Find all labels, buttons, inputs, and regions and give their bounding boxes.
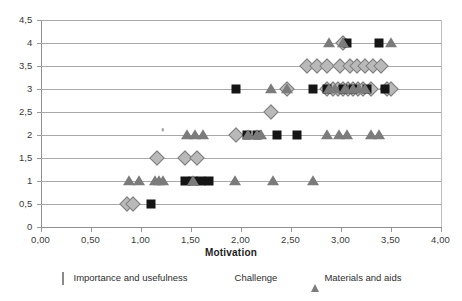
gridline-horizontal: [41, 204, 441, 205]
legend-label: Challenge: [235, 272, 278, 283]
x-axis-tick: [191, 228, 192, 232]
data-point-triangle: [281, 83, 293, 93]
gridline-horizontal: [41, 181, 441, 182]
diamond-icon: [61, 273, 70, 282]
y-axis-tick: [37, 43, 41, 44]
data-point-triangle: [385, 37, 397, 47]
legend-item-materials-and-aids[interactable]: Materials and aids: [311, 272, 401, 283]
x-axis-tick: [41, 228, 42, 232]
x-axis-tick-label: 0,00: [21, 235, 61, 245]
x-axis-title: Motivation: [0, 247, 462, 258]
data-point-square: [380, 84, 389, 93]
x-axis-tick-label: 1,50: [171, 235, 211, 245]
data-point-triangle: [229, 175, 241, 185]
chart-legend: Importance and usefulness Challenge Mate…: [0, 272, 462, 283]
y-axis-tick: [37, 158, 41, 159]
y-axis-tick: [37, 66, 41, 67]
x-axis-tick-label: 3,50: [371, 235, 411, 245]
x-axis-tick-label: 2,00: [221, 235, 261, 245]
y-axis-tick: [37, 135, 41, 136]
gridline-horizontal: [41, 158, 441, 159]
x-axis-tick: [441, 228, 442, 232]
square-icon: [222, 273, 231, 282]
data-point-triangle: [133, 175, 145, 185]
data-point-triangle: [157, 175, 169, 185]
x-axis-tick: [141, 228, 142, 232]
y-axis-tick: [37, 204, 41, 205]
y-axis-tick: [37, 89, 41, 90]
legend-item-importance-and-usefulness[interactable]: Importance and usefulness: [61, 272, 188, 283]
data-point-square: [308, 84, 317, 93]
y-axis-tick-label: 1,5: [0, 153, 33, 163]
y-axis-line: [41, 20, 42, 228]
data-point-square: [272, 130, 281, 139]
data-point-triangle: [373, 129, 385, 139]
legend-label: Materials and aids: [324, 272, 401, 283]
x-axis-tick-label: 1,00: [121, 235, 161, 245]
data-point-triangle: [307, 175, 319, 185]
legend-item-challenge[interactable]: Challenge: [222, 272, 278, 283]
data-point-triangle: [341, 129, 353, 139]
data-point-triangle: [359, 83, 371, 93]
legend-label: Importance and usefulness: [74, 272, 188, 283]
x-axis-tick-label: 3,00: [321, 235, 361, 245]
gridline-horizontal: [41, 112, 441, 113]
y-axis-tick-label: 0: [0, 222, 33, 232]
x-axis-tick: [241, 228, 242, 232]
x-axis-tick-label: 4,00: [421, 235, 461, 245]
x-axis-tick-label: 0,50: [71, 235, 111, 245]
y-axis-tick-label: 0,5: [0, 199, 33, 209]
y-axis-tick: [37, 20, 41, 21]
y-axis-tick-label: 2: [0, 130, 33, 140]
data-point-triangle: [323, 37, 335, 47]
y-axis-tick: [37, 181, 41, 182]
x-axis-tick: [91, 228, 92, 232]
gridline-horizontal: [41, 20, 441, 21]
data-point-triangle: [337, 37, 349, 47]
data-point-triangle: [197, 129, 209, 139]
y-axis-tick-label: 3,5: [0, 61, 33, 71]
y-axis-tick-label: 2,5: [0, 107, 33, 117]
data-point-square: [204, 176, 213, 185]
y-axis-tick-label: 1: [0, 176, 33, 186]
y-axis-tick-label: 4,5: [0, 15, 33, 25]
data-point-square: [231, 84, 240, 93]
x-axis-tick: [391, 228, 392, 232]
data-point-triangle: [267, 175, 279, 185]
stray-mark: [161, 128, 164, 132]
y-axis-tick-label: 3: [0, 84, 33, 94]
data-point-triangle: [255, 129, 267, 139]
plot-right-border: [441, 20, 442, 227]
data-point-square: [292, 130, 301, 139]
plot-area: [41, 20, 441, 227]
x-axis-tick: [341, 228, 342, 232]
y-axis-tick: [37, 112, 41, 113]
data-point-square: [146, 199, 155, 208]
triangle-icon: [311, 273, 320, 282]
data-point-triangle: [265, 83, 277, 93]
scatter-chart: Motivation Importance and usefulness Cha…: [0, 0, 462, 301]
data-point-square: [374, 38, 383, 47]
y-axis-tick-label: 4: [0, 38, 33, 48]
x-axis-tick-label: 2,50: [271, 235, 311, 245]
data-point-triangle: [187, 175, 199, 185]
x-axis-tick: [291, 228, 292, 232]
data-point-triangle: [321, 129, 333, 139]
